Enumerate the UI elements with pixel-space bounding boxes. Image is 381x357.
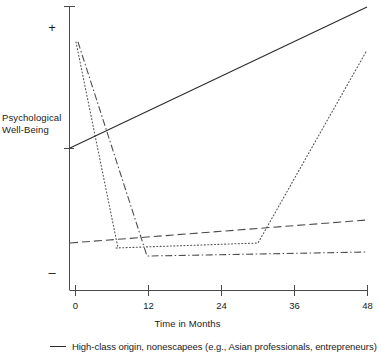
y-axis-label-line1: Psychological	[2, 112, 61, 123]
y-axis-label-line2: Well-Being	[2, 124, 49, 135]
legend-label-entry1: High-class origin, nonescapees (e.g., As…	[72, 341, 377, 352]
y-axis-label: PsychologicalWell-Being	[2, 112, 66, 135]
x-tick-label-36: 36	[280, 300, 310, 311]
series-line-dotted	[76, 42, 367, 248]
y-axis-plus-sign: +	[44, 20, 60, 35]
legend-line-swatch-solid	[50, 346, 66, 347]
x-tick-label-24: 24	[207, 300, 237, 311]
chart-legend: High-class origin, nonescapees (e.g., As…	[50, 341, 375, 352]
y-axis-minus-sign: –	[44, 265, 60, 280]
x-tick-label-48: 48	[353, 300, 381, 311]
x-axis-label: Time in Months	[0, 318, 375, 330]
series-line-solid	[70, 7, 367, 148]
x-tick-label-0: 0	[61, 300, 91, 311]
x-tick-label-12: 12	[134, 300, 164, 311]
